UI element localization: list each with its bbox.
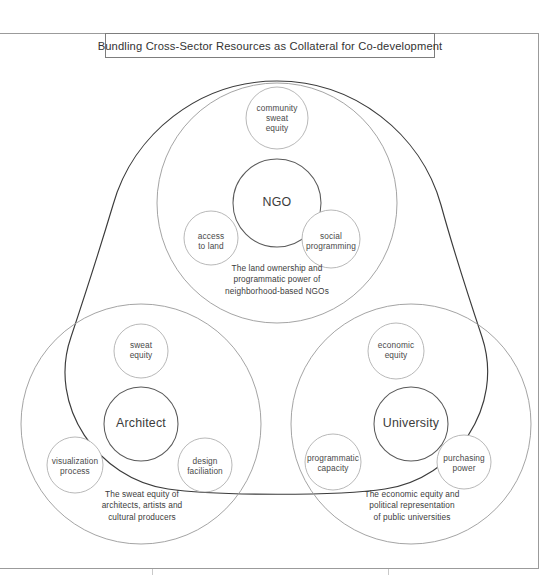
satellite-circle-design-faciliation[interactable] bbox=[178, 438, 232, 492]
satellite-circle-visualization-process[interactable] bbox=[47, 437, 103, 493]
core-circle-architect[interactable] bbox=[104, 387, 178, 461]
core-circle-university[interactable] bbox=[374, 387, 448, 461]
satellite-circle-community-sweat-equity[interactable] bbox=[246, 87, 308, 149]
satellite-circle-economic-equity[interactable] bbox=[368, 323, 424, 379]
satellite-circle-sweat-equity[interactable] bbox=[114, 324, 168, 378]
satellite-circle-purchasing-power[interactable] bbox=[437, 435, 491, 489]
satellite-circle-social-programming[interactable] bbox=[302, 210, 360, 268]
satellite-circle-programmatic-capacity[interactable] bbox=[305, 434, 361, 490]
satellite-circle-access-to-land[interactable] bbox=[184, 211, 238, 265]
